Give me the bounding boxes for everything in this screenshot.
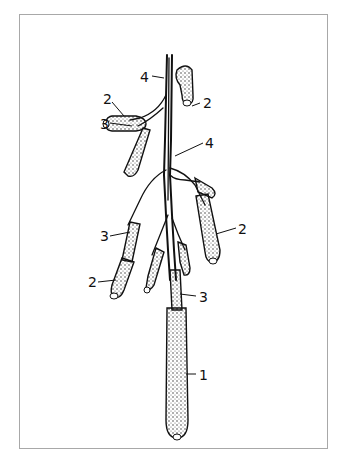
label-2-upper-left: 2 [103,92,112,106]
label-2-upper-right: 2 [203,96,212,110]
label-2-lower-left: 2 [88,275,97,289]
label-2-right: 2 [238,222,247,236]
label-4-middle: 4 [205,136,214,150]
label-4-upper: 4 [140,70,149,84]
label-1: 1 [199,368,208,382]
label-3-lower: 3 [199,290,208,304]
label-3-upper: 3 [100,117,109,131]
inflorescence-drawing [0,0,345,462]
label-3-middle: 3 [100,229,109,243]
